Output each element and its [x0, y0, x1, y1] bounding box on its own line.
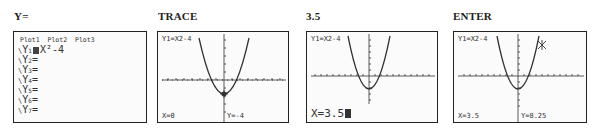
parabola-graph	[158, 32, 289, 123]
step-label-y-equals: Y=	[14, 10, 29, 22]
x-entry-field[interactable]: X=3.5	[311, 107, 351, 120]
x-readout: X=3.5	[458, 112, 479, 120]
step-label-enter: ENTER	[453, 10, 492, 22]
y-readout: Y=-4	[227, 112, 244, 120]
enter-graph-screen: Y1=X2-4 X=3.5 Y=8.25	[453, 31, 587, 123]
plot1-toggle[interactable]: Plot1	[20, 36, 40, 44]
x-readout: X=0	[162, 112, 175, 120]
y7-row[interactable]: \Y7=	[18, 105, 38, 116]
step-label-input: 3.5	[306, 10, 320, 22]
trace-cursor-icon	[538, 40, 546, 50]
y1-expression[interactable]: X²-4	[40, 44, 64, 55]
cursor-block-icon	[345, 109, 351, 118]
trace-cursor-icon	[220, 90, 228, 98]
equals-selected-icon	[33, 47, 39, 54]
function-label: Y1=X2-4	[311, 35, 341, 43]
function-label: Y1=X2-4	[458, 35, 488, 43]
trace-graph-screen: Y1=X2-4 X=0 Y=-4	[157, 31, 289, 123]
plot2-toggle[interactable]: Plot2	[48, 36, 68, 44]
parabola-graph	[454, 32, 587, 123]
y-editor-screen: Plot1 Plot2 Plot3 \Y1X²-4 \Y2= \Y3= \Y4=…	[13, 31, 147, 123]
x-input-graph-screen: Y1=X2-4 X=3.5	[306, 31, 438, 123]
plot3-toggle[interactable]: Plot3	[75, 36, 95, 44]
graph-style-icon: \	[18, 107, 22, 115]
plot-row: Plot1 Plot2 Plot3	[20, 36, 95, 44]
y-readout: Y=8.25	[521, 112, 546, 120]
step-label-trace: TRACE	[158, 10, 198, 22]
function-label: Y1=X2-4	[162, 35, 192, 43]
